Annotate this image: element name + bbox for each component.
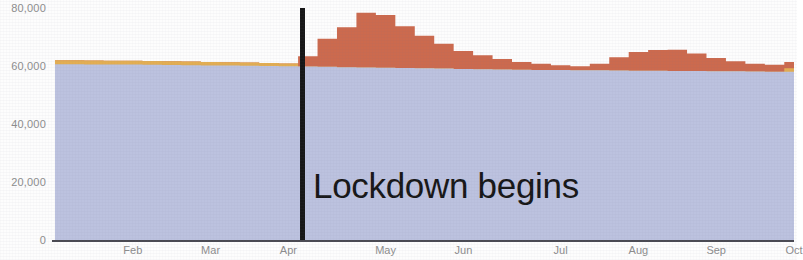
y-tick-label: 40,000 — [11, 118, 46, 130]
series-area-baseline — [55, 64, 794, 240]
x-tick-label: May — [375, 244, 396, 256]
lockdown-marker-line — [300, 8, 305, 240]
x-axis-line — [52, 240, 794, 242]
y-tick-label: 20,000 — [11, 176, 46, 188]
x-tick-label: Jul — [554, 244, 568, 256]
x-axis: FebMarAprMayJunJulAugSepOct — [0, 243, 797, 260]
x-tick-label: Sep — [706, 244, 726, 256]
y-tick-label: 80,000 — [11, 2, 46, 14]
x-tick-label: Mar — [201, 244, 220, 256]
y-tick-label: 60,000 — [11, 60, 46, 72]
x-tick-label: Feb — [123, 244, 142, 256]
x-tick-label: Jun — [455, 244, 473, 256]
lockdown-annotation-label: Lockdown begins — [313, 166, 579, 206]
x-tick-label: Oct — [785, 244, 802, 256]
x-tick-label: Apr — [280, 244, 297, 256]
x-tick-label: Aug — [629, 244, 649, 256]
y-axis: 020,00040,00060,00080,000 — [0, 0, 50, 260]
